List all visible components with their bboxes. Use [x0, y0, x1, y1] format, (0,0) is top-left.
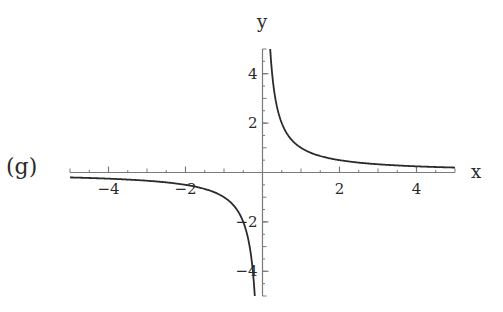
x-axis-label: x [471, 161, 481, 182]
chart: (g) −4−224−4−224 x y [0, 0, 503, 312]
series-line-positive-branch [270, 49, 455, 168]
x-tick-label: −4 [97, 180, 119, 198]
y-tick-label: 4 [248, 65, 258, 83]
y-tick-label: −2 [235, 213, 257, 231]
x-tick-label: 2 [335, 180, 345, 198]
x-tick-label: 4 [412, 180, 422, 198]
axes: −4−224−4−224 [70, 49, 455, 296]
panel-label: (g) [6, 154, 37, 179]
y-axis-label: y [256, 11, 268, 32]
x-tick-label: −2 [174, 180, 196, 198]
y-tick-label: 2 [248, 114, 258, 132]
